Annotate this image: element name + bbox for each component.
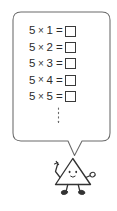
equation-factor-a: 5 — [29, 58, 36, 70]
equation-row: 5 × 5 = — [29, 89, 101, 105]
answer-box[interactable] — [65, 58, 76, 69]
equation-factor-b: 5 — [46, 91, 53, 103]
equation-factor-b: 3 — [46, 58, 53, 70]
equation-factor-a: 5 — [29, 25, 36, 37]
multiplication-sign-icon: × — [38, 26, 44, 36]
multiplication-sign-icon: × — [38, 75, 44, 85]
equals-sign: = — [56, 91, 63, 103]
triangle-character — [55, 159, 96, 196]
equation-factor-a: 5 — [29, 42, 36, 54]
answer-box[interactable] — [65, 91, 76, 102]
multiplication-sign-icon: × — [38, 59, 44, 69]
equation-factor-b: 4 — [46, 75, 53, 87]
equation-factor-a: 5 — [29, 75, 36, 87]
answer-box[interactable] — [65, 26, 76, 37]
equation-list: 5 × 1 = 5 × 2 = 5 × 3 = 5 × 4 = — [29, 23, 101, 107]
equation-row: 5 × 4 = — [29, 72, 101, 88]
answer-box[interactable] — [65, 42, 76, 53]
equation-row: 5 × 3 = — [29, 56, 101, 72]
character-body — [56, 159, 91, 185]
equals-sign: = — [56, 58, 63, 70]
multiplication-sign-icon: × — [38, 92, 44, 102]
multiplication-sign-icon: × — [38, 43, 44, 53]
equation-row: 5 × 2 = — [29, 39, 101, 55]
character-left-arm — [55, 161, 61, 178]
equation-factor-a: 5 — [29, 91, 36, 103]
character-legs — [66, 185, 80, 192]
character-feet — [61, 190, 85, 195]
equals-sign: = — [56, 25, 63, 37]
equation-row: 5 × 1 = — [29, 23, 101, 39]
equation-factor-b: 1 — [46, 25, 53, 37]
answer-box[interactable] — [65, 75, 76, 86]
equals-sign: = — [56, 75, 63, 87]
equals-sign: = — [56, 42, 63, 54]
equation-factor-b: 2 — [46, 42, 53, 54]
worksheet-scene: 5 × 1 = 5 × 2 = 5 × 3 = 5 × 4 = — [0, 0, 117, 211]
